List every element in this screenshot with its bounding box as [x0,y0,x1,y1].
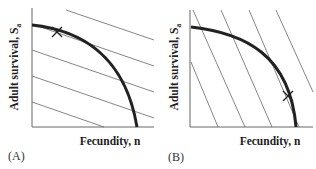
panel-a: Adult survival, Sa Fecundity, n (A) [8,8,154,163]
panel-a-label: (A) [8,149,25,163]
isoline [66,10,154,40]
figure: Adult survival, Sa Fecundity, n (A) Adul… [0,0,316,169]
panel-b-y-label: Adult survival, Sa [168,24,183,111]
isoline [32,24,154,66]
isoline [32,50,154,92]
isoline [32,102,104,127]
isoline [191,62,218,127]
isoline [249,10,299,127]
panel-a-tradeoff-curve [32,25,137,127]
isoline [32,76,154,118]
panel-a-y-label: Adult survival, Sa [8,24,23,111]
panel-a-x-label: Fecundity, n [80,135,141,148]
panel-b-label: (B) [168,150,184,164]
isoline [221,10,272,127]
panel-b: Adult survival, Sa Fecundity, n (B) [168,10,313,164]
panel-b-tradeoff-curve [191,27,296,127]
isoline [276,10,313,92]
panel-b-x-label: Fecundity, n [240,135,301,148]
